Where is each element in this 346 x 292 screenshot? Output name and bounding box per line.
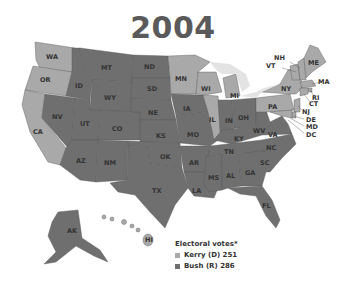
svg-text:MS: MS [208,174,219,182]
svg-text:VA: VA [268,131,278,139]
state-in[interactable] [218,100,234,132]
svg-text:AR: AR [189,159,199,167]
legend-item-kerry: Kerry (D) 251 [175,251,238,259]
legend-heading: Electoral votes* [175,240,238,248]
kerry-swatch [175,253,180,258]
svg-text:NY: NY [281,85,291,93]
svg-text:VT: VT [266,62,276,70]
legend-item-bush: Bush (R) 286 [175,262,238,270]
svg-text:OH: OH [238,114,249,122]
svg-text:WY: WY [104,94,116,102]
svg-text:SD: SD [147,85,158,93]
legend-label-kerry: Kerry (D) 251 [184,251,237,259]
state-ma[interactable] [300,80,316,88]
state-nj[interactable] [294,98,300,112]
svg-text:NM: NM [104,159,116,167]
svg-text:DC: DC [306,131,316,139]
svg-text:IN: IN [225,117,233,125]
svg-text:CO: CO [112,125,123,133]
svg-text:ME: ME [308,59,319,67]
svg-text:WV: WV [253,127,265,135]
svg-text:FL: FL [262,202,271,210]
bush-swatch [175,264,180,269]
svg-text:ID: ID [75,82,83,90]
svg-text:NH: NH [274,54,285,62]
svg-text:CT: CT [309,100,319,108]
svg-text:WA: WA [46,53,58,61]
svg-text:OR: OR [40,76,51,84]
svg-text:AL: AL [226,172,235,180]
state-de[interactable] [292,112,296,118]
svg-text:MD: MD [306,123,318,131]
svg-text:NV: NV [52,113,62,121]
svg-text:IA: IA [183,105,190,113]
svg-text:NJ: NJ [302,108,310,116]
svg-text:MA: MA [318,78,330,86]
svg-text:UT: UT [80,120,90,128]
svg-text:MT: MT [101,64,112,72]
svg-text:TX: TX [152,187,161,195]
state-oh[interactable] [232,98,256,128]
legend: Electoral votes* Kerry (D) 251 Bush (R) … [175,240,238,270]
svg-text:MN: MN [175,75,187,83]
svg-text:NE: NE [148,109,158,117]
svg-text:LA: LA [192,187,201,195]
state-ak[interactable] [44,210,108,264]
state-ct[interactable] [300,88,308,96]
svg-text:SC: SC [260,159,270,167]
legend-label-bush: Bush (R) 286 [184,262,235,270]
state-fl[interactable] [228,186,280,228]
svg-text:MO: MO [187,131,199,139]
svg-text:OK: OK [160,153,172,161]
svg-text:CA: CA [33,128,43,136]
svg-text:AK: AK [67,227,78,235]
svg-text:KY: KY [234,135,244,143]
svg-text:ND: ND [144,63,155,71]
svg-text:IL: IL [209,116,216,124]
svg-text:PA: PA [268,103,277,111]
svg-text:HI: HI [145,236,153,244]
svg-text:AZ: AZ [76,157,86,165]
svg-text:NC: NC [266,144,276,152]
svg-text:KS: KS [156,132,166,140]
svg-text:GA: GA [245,169,255,177]
us-electoral-map: WA OR CA ID NV MT WY UT AZ CO NM ND SD N… [0,0,346,292]
svg-text:WI: WI [201,85,211,93]
svg-text:MI: MI [230,92,239,100]
svg-text:TN: TN [224,148,234,156]
